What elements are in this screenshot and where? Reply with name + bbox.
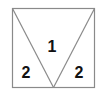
left-region-label: 2 <box>22 65 31 81</box>
right-region-label: 2 <box>75 65 84 81</box>
center-region-label: 1 <box>48 39 57 55</box>
